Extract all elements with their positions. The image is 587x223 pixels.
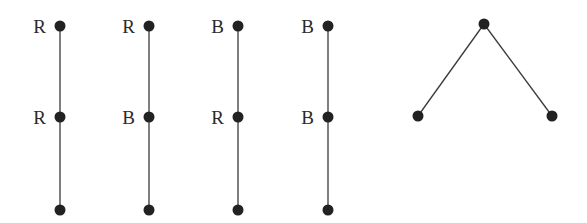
vertex — [55, 112, 66, 123]
vertex — [233, 205, 244, 216]
vertex — [144, 21, 155, 32]
vertex — [55, 21, 66, 32]
vertex — [233, 112, 244, 123]
vertex — [233, 21, 244, 32]
vertex-color-label: R — [122, 16, 135, 37]
vertex — [144, 205, 155, 216]
vertex — [323, 21, 334, 32]
vertex-color-label: R — [33, 107, 46, 128]
path-4: BB — [301, 16, 333, 216]
path-1: RR — [33, 16, 65, 216]
vertex-color-label: B — [122, 107, 135, 128]
vertex — [55, 205, 66, 216]
path-3: BR — [211, 16, 243, 216]
vertex-color-label: R — [211, 107, 224, 128]
vertex — [479, 19, 490, 30]
edge — [418, 24, 484, 116]
edge — [484, 24, 552, 116]
star-tree — [413, 19, 558, 122]
vertex — [547, 111, 558, 122]
vertex-color-label: B — [211, 16, 224, 37]
vertex — [413, 111, 424, 122]
path-2: RB — [122, 16, 154, 216]
vertex-color-label: R — [33, 16, 46, 37]
vertex-color-label: B — [301, 16, 314, 37]
vertex — [323, 112, 334, 123]
graph-figure: RRRBBRBB — [0, 0, 587, 223]
vertex-color-label: B — [301, 107, 314, 128]
vertex — [144, 112, 155, 123]
diagram-canvas: RRRBBRBB — [0, 0, 587, 223]
vertex — [323, 205, 334, 216]
